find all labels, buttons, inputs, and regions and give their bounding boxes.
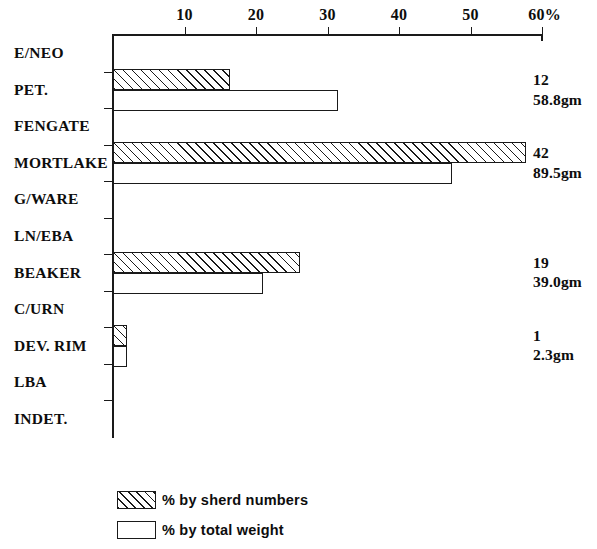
annotation-dev-rim: 12.3gm	[533, 326, 574, 366]
y-tick-2	[104, 108, 113, 109]
category-label-beaker: BEAKER	[14, 264, 81, 282]
legend-swatch-hatched-icon	[117, 491, 156, 509]
y-tick-4	[104, 181, 113, 182]
x-axis-right-cap	[541, 34, 543, 41]
y-tick-10	[104, 400, 113, 401]
category-label-indet: INDET.	[14, 410, 68, 428]
y-tick-3	[104, 145, 113, 146]
annotation-count: 42	[533, 143, 582, 163]
annotation-mortlake: 4289.5gm	[533, 143, 582, 183]
x-tick-label-60: 60%	[528, 6, 561, 24]
category-label-c-urn: C/URN	[14, 300, 65, 318]
x-tick-label-40: 40	[391, 6, 407, 24]
category-label-pet: PET.	[14, 81, 48, 99]
annotation-count: 19	[533, 253, 582, 273]
y-tick-7	[104, 291, 113, 292]
x-tick-10	[185, 27, 186, 35]
bar-dev-rim-sherd-numbers	[113, 325, 127, 346]
category-label-ln-eba: LN/EBA	[14, 227, 74, 245]
bar-mortlake-sherd-numbers	[113, 142, 526, 163]
annotation-pet: 1258.8gm	[533, 70, 582, 110]
x-tick-label-20: 20	[248, 6, 264, 24]
bar-pet-sherd-numbers	[113, 69, 230, 90]
y-tick-9	[104, 364, 113, 365]
category-label-e-neo: E/NEO	[14, 44, 64, 62]
x-tick-30	[328, 27, 329, 35]
annotation-weight: 89.5gm	[533, 163, 582, 183]
category-label-dev-rim: DEV. RIM	[14, 337, 87, 355]
y-tick-6	[104, 254, 113, 255]
bar-mortlake-total-weight	[113, 163, 452, 184]
legend-label-total-weight: % by total weight	[162, 522, 284, 538]
legend-label-sherd-numbers: % by sherd numbers	[162, 492, 308, 508]
bar-pet-total-weight	[113, 90, 338, 111]
legend-item-sherd-numbers: % by sherd numbers	[117, 485, 308, 515]
bar-chart: 102030405060% E/NEOPET.FENGATEMORTLAKEG/…	[0, 0, 597, 549]
y-tick-5	[104, 218, 113, 219]
y-tick-1	[104, 72, 113, 73]
category-label-fengate: FENGATE	[14, 117, 90, 135]
annotation-weight: 58.8gm	[533, 90, 582, 110]
y-tick-8	[104, 327, 113, 328]
x-tick-label-10: 10	[176, 6, 192, 24]
category-label-mortlake: MORTLAKE	[14, 154, 108, 172]
bar-beaker-total-weight	[113, 273, 263, 294]
annotation-count: 12	[533, 70, 582, 90]
legend-swatch-white-icon	[117, 521, 156, 539]
x-tick-50	[471, 27, 472, 35]
x-tick-40	[399, 27, 400, 35]
annotation-beaker: 1939.0gm	[533, 253, 582, 293]
x-tick-label-50: 50	[462, 6, 478, 24]
annotation-weight: 39.0gm	[533, 272, 582, 292]
category-label-g-ware: G/WARE	[14, 190, 79, 208]
bar-dev-rim-total-weight	[113, 346, 127, 367]
category-label-lba: LBA	[14, 373, 47, 391]
legend: % by sherd numbers % by total weight	[117, 485, 308, 545]
x-tick-20	[256, 27, 257, 35]
x-tick-label-30: 30	[319, 6, 335, 24]
legend-item-total-weight: % by total weight	[117, 515, 308, 545]
bar-beaker-sherd-numbers	[113, 252, 300, 273]
x-tick-60	[542, 27, 543, 35]
annotation-weight: 2.3gm	[533, 345, 574, 365]
annotation-count: 1	[533, 326, 574, 346]
